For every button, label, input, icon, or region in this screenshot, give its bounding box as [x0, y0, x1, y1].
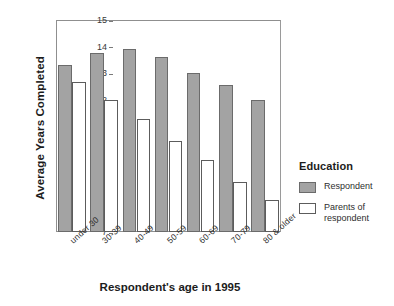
bar-group: [249, 20, 281, 232]
x-axis-ticks: under 3030-3940-4950-5960-6970-7980 & ol…: [56, 232, 281, 280]
bar-respondent: [187, 73, 201, 232]
bar-chart: Average Years Completed 789101112131415 …: [0, 0, 394, 306]
bar-parents: [201, 160, 215, 232]
bar-respondent: [58, 65, 72, 232]
legend-label-parents: Parents of respondent: [324, 202, 394, 224]
bar-respondent: [90, 53, 104, 232]
bar-parents: [72, 82, 86, 232]
bar-group: [120, 20, 152, 232]
x-axis-title: Respondent's age in 1995: [40, 281, 300, 293]
bar-parents: [104, 100, 118, 233]
legend-swatch-parents: [299, 203, 316, 214]
bar-group: [88, 20, 120, 232]
legend-label-respondent: Respondent: [324, 181, 373, 192]
bar-respondent: [251, 100, 265, 233]
bar-respondent: [123, 49, 137, 232]
bar-group: [152, 20, 184, 232]
legend-title: Education: [299, 160, 394, 172]
bar-group: [56, 20, 88, 232]
bar-respondent: [219, 85, 233, 232]
legend-swatch-respondent: [299, 182, 316, 193]
legend: Education Respondent Parents of responde…: [299, 160, 394, 233]
bars-layer: [56, 20, 281, 232]
legend-item-parents: Parents of respondent: [299, 202, 394, 224]
bar-respondent: [155, 57, 169, 232]
bar-group: [185, 20, 217, 232]
bar-parents: [137, 119, 151, 232]
legend-item-respondent: Respondent: [299, 181, 394, 193]
bar-group: [217, 20, 249, 232]
y-axis-title: Average Years Completed: [34, 18, 46, 238]
bar-parents: [169, 141, 183, 232]
